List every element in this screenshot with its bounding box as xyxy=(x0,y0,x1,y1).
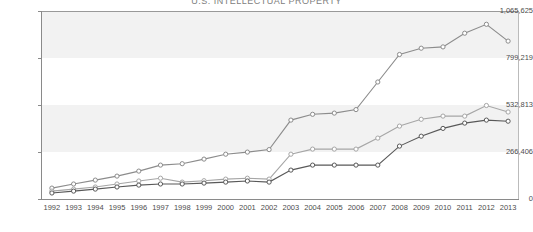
y-tick-label: 266,406 xyxy=(495,148,533,156)
x-tick-label: 2013 xyxy=(495,203,521,212)
plot-area xyxy=(41,11,519,199)
y-tick-mark xyxy=(38,58,41,59)
y-tick-mark xyxy=(38,105,41,106)
y-tick-mark xyxy=(38,152,41,153)
y-axis xyxy=(41,11,42,200)
x-axis xyxy=(41,199,519,200)
y-tick-label: 1,065,625 xyxy=(495,7,533,15)
chart-container: U.S. INTELLECTUAL PROPERTY 1,065,625 799… xyxy=(0,0,533,232)
chart-title: U.S. INTELLECTUAL PROPERTY xyxy=(0,0,533,5)
y-tick-label: 532,813 xyxy=(495,101,533,109)
y-tick-label: 799,219 xyxy=(495,54,533,62)
y-tick-mark xyxy=(38,199,41,200)
y-tick-label: 0 xyxy=(495,195,533,203)
grid-band xyxy=(41,11,519,58)
grid-band xyxy=(41,105,519,152)
y-tick-mark xyxy=(38,11,41,12)
